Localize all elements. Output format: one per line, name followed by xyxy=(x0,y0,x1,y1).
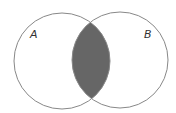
set-b-label: B xyxy=(144,28,152,41)
venn-diagram: A B xyxy=(0,0,176,113)
set-a-label: A xyxy=(29,28,38,41)
